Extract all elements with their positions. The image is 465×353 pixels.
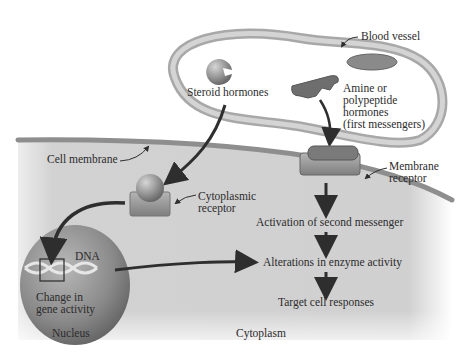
- label-gene-line1: Change in: [36, 291, 83, 304]
- label-alterations: Alterations in enzyme activity: [263, 256, 402, 269]
- label-amine-line3: hormones: [343, 106, 388, 119]
- red-blood-cell: [347, 54, 397, 70]
- label-steroid-hormones: Steroid hormones: [187, 86, 268, 99]
- label-nucleus: Nucleus: [52, 327, 90, 340]
- label-cytoplasmic-receptor-line1: Cytoplasmic: [198, 190, 256, 203]
- label-membrane-receptor-line2: receptor: [389, 172, 427, 185]
- steroid-hormone-shape: [206, 59, 232, 85]
- label-dna: DNA: [75, 250, 100, 263]
- label-cell-membrane: Cell membrane: [47, 153, 118, 166]
- label-amine-line4: (first messengers): [343, 118, 425, 131]
- amine-hormone-shape: [292, 76, 339, 98]
- label-cytoplasm: Cytoplasm: [236, 327, 286, 340]
- hormone-signaling-diagram: Blood vessel Steroid hormones Amine or p…: [0, 0, 465, 353]
- label-blood-vessel: Blood vessel: [361, 30, 420, 43]
- label-activation: Activation of second messenger: [256, 216, 403, 229]
- label-membrane-receptor-line1: Membrane: [389, 160, 439, 173]
- label-target-responses: Target cell responses: [278, 296, 374, 309]
- label-amine-line1: Amine or: [343, 82, 387, 95]
- membrane-receptor-shape: [300, 146, 360, 175]
- label-amine-line2: polypeptide: [343, 94, 397, 107]
- label-cytoplasmic-receptor-line2: receptor: [198, 202, 236, 215]
- label-gene-line2: gene activity: [36, 303, 95, 316]
